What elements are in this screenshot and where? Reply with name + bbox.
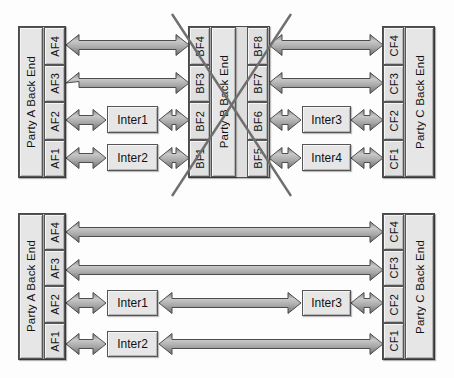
top-interface-bf3: BF3 [189,65,210,102]
top-bf1-label: BF1 [194,148,206,169]
bottom-party-c-backend: Party C Back End [405,214,434,359]
top-party-c-backend: Party C Back End [405,27,434,177]
top-interface-bf7: BF7 [247,65,268,102]
top-interface-bf6: BF6 [247,102,268,140]
top-party-b-label: Party B Back End [218,55,230,148]
arrow-inter3-cf2 [351,110,383,131]
top-bf6-label: BF6 [252,111,264,132]
top-inter2-label: Inter2 [108,145,157,170]
top-party-c-label: Party C Back End [414,55,426,149]
arrow-af1-inter2 [66,148,106,169]
figure-canvas: Party A Back End AF4 AF3 AF2 AF1 Inter1 … [0,0,454,378]
top-interface-cf4: CF4 [383,27,404,65]
bottom-inter3-label: Inter3 [303,291,350,315]
bottom-af3-label: AF3 [49,258,61,279]
bottom-interface-cf3: CF3 [383,250,404,286]
top-interface-cf2: CF2 [383,102,404,140]
top-inter4-label: Inter4 [303,145,350,170]
bottom-cf1-label: CF1 [388,330,400,351]
top-cf2-label: CF2 [388,110,400,131]
top-interface-af1: AF1 [44,140,65,177]
bottom-inter2-box: Inter2 [107,331,158,357]
bottom-cf2-label: CF2 [388,294,400,315]
arrow-bottom-inter2-cf1 [159,334,383,355]
top-bf2-label: BF2 [194,111,206,132]
top-inter1-label: Inter1 [108,107,157,132]
arrow-bottom-inter3-cf2 [351,293,383,314]
bottom-inter2-label: Inter2 [108,332,157,356]
top-af2-label: AF2 [49,111,61,132]
arrow-bottom-af2-inter1 [66,293,106,314]
top-bf5-label: BF5 [252,148,264,169]
bottom-interface-af2: AF2 [44,286,65,323]
arrow-af4-bf4 [66,35,189,56]
bottom-interface-af4: AF4 [44,214,65,250]
arrow-bottom-af4-cf4 [66,222,383,243]
bottom-interface-cf4: CF4 [383,214,404,250]
top-cf3-label: CF3 [388,73,400,94]
bottom-cf3-label: CF3 [388,257,400,278]
top-interface-cf3: CF3 [383,65,404,102]
bottom-inter1-box: Inter1 [107,290,158,316]
arrow-inter2-bf1 [159,148,189,169]
arrow-bf7-cf3 [269,73,383,94]
top-party-b-backend: Party B Back End [211,27,236,177]
top-af3-label: AF3 [49,73,61,94]
top-interface-bf4: BF4 [189,27,210,65]
arrow-inter1-bf2 [159,110,189,131]
bottom-interface-cf1: CF1 [383,323,404,359]
arrow-bf5-inter4 [269,148,301,169]
top-cf4-label: CF4 [388,35,400,56]
top-interface-bf8: BF8 [247,27,268,65]
bottom-inter3-box: Inter3 [302,290,351,316]
bottom-af1-label: AF1 [49,331,61,352]
bottom-party-a-backend: Party A Back End [19,214,43,359]
top-bf3-label: BF3 [194,73,206,94]
top-af1-label: AF1 [49,148,61,169]
arrow-af2-inter1 [66,110,106,131]
bottom-interface-cf2: CF2 [383,286,404,323]
top-af4-label: AF4 [49,36,61,57]
bottom-af4-label: AF4 [49,222,61,243]
bottom-af2-label: AF2 [49,294,61,315]
top-interface-cf1: CF1 [383,140,404,177]
top-interface-af3: AF3 [44,65,65,102]
top-inter3-label: Inter3 [303,107,350,132]
bottom-party-a-label: Party A Back End [25,240,37,332]
top-inter2-box: Inter2 [107,144,158,171]
top-party-a-backend: Party A Back End [19,27,43,177]
top-bf8-label: BF8 [252,36,264,57]
top-party-a-label: Party A Back End [25,56,37,148]
arrow-af3-bf3 [66,73,189,94]
top-cf1-label: CF1 [388,148,400,169]
top-bf7-label: BF7 [252,73,264,94]
bottom-interface-af3: AF3 [44,250,65,286]
bottom-inter1-label: Inter1 [108,291,157,315]
arrow-bottom-inter1-inter3 [159,293,301,314]
arrow-inter4-cf1 [351,148,383,169]
top-bf4-label: BF4 [194,36,206,57]
top-inter1-box: Inter1 [107,106,158,133]
bottom-interface-af1: AF1 [44,323,65,359]
arrow-bf6-inter3 [269,110,301,131]
top-inter4-box: Inter4 [302,144,351,171]
arrow-bf8-cf4 [269,35,383,56]
top-inter3-box: Inter3 [302,106,351,133]
bottom-cf4-label: CF4 [388,221,400,242]
top-interface-af2: AF2 [44,102,65,140]
top-interface-bf1: BF1 [189,140,210,177]
top-interface-bf5: BF5 [247,140,268,177]
arrow-bottom-af1-inter2 [66,334,106,355]
top-interface-af4: AF4 [44,27,65,65]
bottom-party-c-label: Party C Back End [414,240,426,334]
arrow-bottom-af3-cf3 [66,260,383,281]
top-interface-bf2: BF2 [189,102,210,140]
